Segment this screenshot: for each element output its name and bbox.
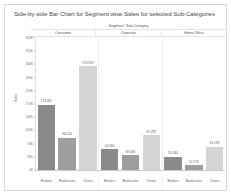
segment-header-cell-label: Home Office	[184, 31, 203, 35]
x-axis-labels: BindersBookcasesChairsBindersBookcasesCh…	[36, 178, 225, 190]
chart-title-bar: Side-by-side Bar Chart for Segment wise …	[5, 5, 226, 22]
y-axis-title: Sales	[14, 94, 18, 102]
visualization-container: Side-by-side Bar Chart for Segment wise …	[4, 4, 227, 191]
x-axis-tick-label[interactable]: Binders	[38, 178, 55, 183]
x-axis-tick-label[interactable]: Binders	[101, 178, 118, 183]
y-axis-tick-label: 315K	[26, 49, 33, 53]
bar-value-label: 92,787	[146, 130, 156, 134]
bar-slot: 12,276	[185, 38, 202, 170]
bar[interactable]: 173,461	[38, 105, 55, 170]
bar-slot: 173,461	[38, 38, 55, 170]
segment-header-row: ConsumerCorporateHome Office	[31, 29, 226, 37]
y-axis-tick-label: 140K	[26, 115, 33, 119]
y-axis-tick-label: 35K	[27, 155, 33, 159]
bar-value-label: 173,461	[41, 99, 53, 103]
y-axis-tick-label: 280K	[26, 62, 33, 66]
bar-value-label: 35,180	[168, 151, 178, 155]
bar[interactable]: 274,929	[79, 66, 96, 170]
bar-slot: 54,580	[101, 38, 118, 170]
bar-group-consumer: 173,46186,114274,929	[36, 38, 99, 170]
segment-header-cell[interactable]: Corporate	[96, 30, 161, 36]
segment-header-cell[interactable]: Home Office	[162, 30, 226, 36]
bar-group-corporate: 54,58039,08092,787	[99, 38, 162, 170]
x-axis-tick-label[interactable]: Bookcases	[122, 178, 139, 183]
bar[interactable]: 39,080	[122, 155, 139, 170]
bar-slot: 92,787	[143, 38, 160, 170]
x-axis-line	[35, 170, 225, 171]
bar[interactable]: 86,114	[58, 138, 75, 170]
bar-slot: 61,185	[206, 38, 223, 170]
x-label-group: BindersBookcasesChairs	[163, 178, 225, 190]
bar-slot: 35,180	[164, 38, 181, 170]
bar-value-label: 12,276	[189, 160, 199, 164]
x-axis-tick-label[interactable]: Chairs	[79, 178, 96, 183]
segment-header-cell-label: Corporate	[121, 31, 137, 35]
plot-area: Sales 0K35K70K105K140K175K210K245K280K31…	[14, 38, 226, 178]
bar-value-label: 274,929	[82, 61, 94, 65]
bar[interactable]: 54,580	[101, 149, 118, 170]
x-label-group: BindersBookcasesChairs	[36, 178, 99, 190]
bar-value-label: 54,580	[105, 144, 115, 148]
y-axis: 0K35K70K105K140K175K210K245K280K315K350K	[19, 38, 35, 170]
bar-panels: 173,46186,114274,92954,58039,08092,78735…	[36, 38, 225, 170]
y-axis-tick-label: 210K	[26, 89, 33, 93]
bar[interactable]: 92,787	[143, 135, 160, 170]
x-axis-tick-label[interactable]: Chairs	[143, 178, 160, 183]
segment-header-cell[interactable]: Consumer	[31, 30, 96, 36]
bar-value-label: 86,114	[62, 132, 72, 136]
x-axis-tick-label[interactable]: Bookcases	[185, 178, 202, 183]
bar-slot: 274,929	[79, 38, 96, 170]
bar-value-label: 39,080	[126, 150, 136, 154]
x-label-group: BindersBookcasesChairs	[99, 178, 162, 190]
bar[interactable]: 61,185	[206, 147, 223, 170]
y-axis-tick-label: 0K	[29, 168, 33, 172]
bar[interactable]: 35,180	[164, 157, 181, 170]
y-axis-tick-label: 70K	[27, 142, 33, 146]
segment-header-cell-label: Consumer	[55, 31, 71, 35]
segment-header-group: Segment / Sub-Category	[31, 22, 226, 29]
y-axis-tick-label: 350K	[26, 36, 33, 40]
y-axis-tick-label: 175K	[26, 102, 33, 106]
bar-group-home-office: 35,18012,27661,185	[163, 38, 225, 170]
bar-value-label: 61,185	[210, 141, 220, 145]
x-axis-tick-label[interactable]: Bookcases	[58, 178, 75, 183]
y-axis-tick-label: 105K	[26, 128, 33, 132]
bar[interactable]: 12,276	[185, 165, 202, 170]
x-axis-tick-label[interactable]: Binders	[164, 178, 181, 183]
bar-slot: 86,114	[58, 38, 75, 170]
segment-header-label: Segment / Sub-Category	[109, 24, 149, 28]
y-axis-tick-label: 245K	[26, 76, 33, 80]
bar-slot: 39,080	[122, 38, 139, 170]
x-axis-tick-label[interactable]: Chairs	[206, 178, 223, 183]
page-title: Side-by-side Bar Chart for Segment wise …	[14, 10, 215, 17]
